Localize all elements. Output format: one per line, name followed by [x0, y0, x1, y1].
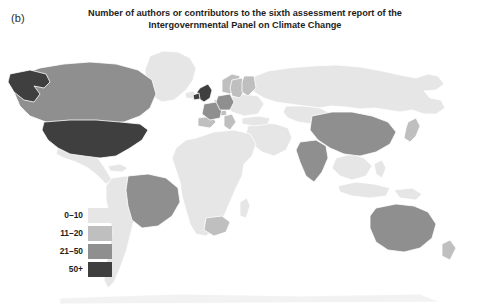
country-turkey: [242, 116, 270, 126]
legend-swatch-3: [88, 262, 112, 277]
panel-label: (b): [11, 12, 25, 24]
legend-swatch-2: [88, 244, 112, 259]
region-southeast-asia: [332, 154, 372, 180]
legend-item-2[interactable]: 21–50: [26, 242, 112, 260]
island-papua-new-guinea: [394, 188, 422, 200]
legend-label-3: 50+: [69, 264, 83, 274]
country-indonesia: [338, 182, 390, 198]
legend-label-0: 0–10: [64, 210, 83, 220]
country-brazil: [126, 174, 180, 228]
figure-panel-b: (b) Number of authors or contributors to…: [0, 0, 485, 304]
country-russia: [249, 65, 445, 114]
legend-item-0[interactable]: 0–10: [26, 206, 112, 224]
chart-title-line-1: Number of authors or contributors to the…: [70, 7, 420, 19]
country-finland: [242, 76, 256, 96]
legend-label-1: 11–20: [60, 228, 83, 238]
country-germany: [216, 94, 234, 110]
country-japan: [404, 118, 420, 142]
country-india: [296, 140, 328, 182]
legend-label-2: 21–50: [60, 246, 83, 256]
country-australia: [370, 204, 436, 252]
legend-swatch-0: [88, 208, 112, 223]
region-caribbean: [108, 164, 128, 172]
legend-item-3[interactable]: 50+: [26, 260, 112, 278]
country-italy: [224, 114, 236, 130]
country-philippines: [374, 160, 386, 178]
country-madagascar: [240, 198, 250, 218]
country-new-zealand: [442, 240, 456, 260]
region-antarctic-fringe: [60, 294, 440, 304]
legend-swatch-1: [88, 226, 112, 241]
chart-title: Number of authors or contributors to the…: [70, 7, 420, 32]
legend-item-1[interactable]: 11–20: [26, 224, 112, 242]
map-legend: 0–10 11–20 21–50 50+: [26, 206, 112, 278]
